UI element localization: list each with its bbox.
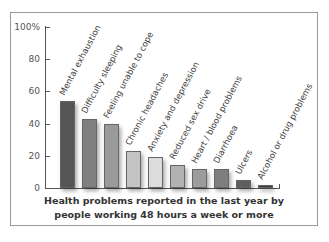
y-tick-label: 60 (2, 86, 40, 96)
caption-line-2: people working 48 hours a week or more (10, 208, 318, 222)
caption-line-1: Health problems reported in the last yea… (10, 194, 318, 208)
y-tick-label: 80 (2, 54, 40, 64)
y-tick-label: 100% (2, 22, 40, 32)
y-tick-label: 20 (2, 151, 40, 161)
y-tick-label: 40 (2, 119, 40, 129)
bar (214, 169, 229, 188)
chart-caption: Health problems reported in the last yea… (10, 194, 318, 222)
bar (148, 157, 163, 188)
x-axis (45, 188, 280, 189)
bar (170, 165, 185, 188)
y-tick (45, 27, 50, 28)
y-tick (45, 124, 50, 125)
bar (104, 124, 119, 188)
y-tick (45, 59, 50, 60)
bar (258, 185, 273, 188)
bar (236, 180, 251, 188)
bar (82, 119, 97, 188)
y-tick-label: 0 (2, 183, 40, 193)
y-axis (45, 26, 46, 188)
y-tick (45, 91, 50, 92)
x-axis-end-tick (279, 184, 280, 189)
y-tick (45, 156, 50, 157)
bar (126, 151, 141, 188)
bar (60, 101, 75, 188)
bar (192, 169, 207, 188)
